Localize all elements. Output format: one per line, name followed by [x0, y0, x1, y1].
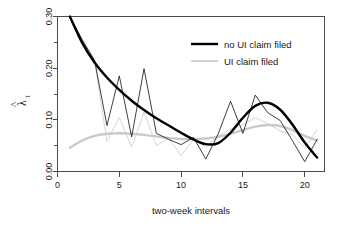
y-axis-title-subscript: t: [23, 95, 32, 98]
series-ui-claim-filed-smoothed: [70, 125, 317, 148]
legend-label-no-ui-claim-filed: no UI claim filed: [224, 39, 292, 50]
chart-figure: 0.000.100.200.30 05101520 λ ^ t two-week…: [0, 0, 345, 230]
y-tick-label: 0.30: [44, 8, 54, 26]
y-axis-title-hat: ^: [8, 101, 20, 107]
x-tick-label: 20: [300, 180, 310, 190]
y-tick-label: 0.10: [44, 111, 54, 129]
x-axis: 05101520: [55, 172, 310, 190]
y-tick-label: 0.20: [44, 59, 54, 77]
x-tick-label: 15: [238, 180, 248, 190]
y-tick-label: 0.00: [44, 163, 54, 181]
legend-label-ui-claim-filed: UI claim filed: [224, 56, 278, 67]
y-axis: 0.000.100.200.30: [44, 8, 58, 181]
chart-legend: no UI claim filed UI claim filed: [191, 39, 292, 67]
plot-canvas: 0.000.100.200.30 05101520 λ ^ t two-week…: [0, 0, 345, 230]
y-axis-title: λ ^ t: [8, 95, 32, 108]
x-axis-title: two-week intervals: [152, 205, 230, 216]
x-tick-label: 0: [55, 180, 60, 190]
x-tick-label: 10: [176, 180, 186, 190]
x-tick-label: 5: [117, 180, 122, 190]
